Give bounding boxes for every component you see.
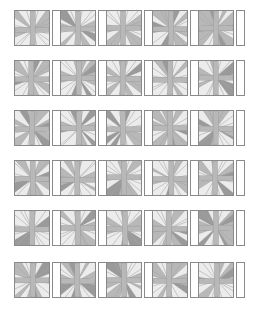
starburst-tile (60, 210, 96, 246)
tile-cell (106, 110, 152, 150)
starburst-tile (152, 160, 188, 196)
tile-cell (198, 110, 244, 150)
tile-cell (60, 160, 106, 200)
starburst-tile (152, 262, 188, 298)
starburst-tile (152, 60, 188, 96)
tile-row (0, 262, 254, 302)
tile-row (0, 10, 254, 50)
starburst-tile (60, 10, 96, 46)
starburst-tile (14, 160, 50, 196)
starburst-tile (60, 160, 96, 196)
tile-cell (14, 210, 60, 250)
separator-bar (236, 210, 245, 246)
starburst-tile (198, 10, 234, 46)
separator-bar (236, 60, 245, 96)
tile-cell (152, 210, 198, 250)
tile-cell (152, 160, 198, 200)
starburst-tile (106, 60, 142, 96)
tile-cell (198, 262, 244, 302)
starburst-tile (106, 10, 142, 46)
tile-row (0, 210, 254, 250)
tile-cell (198, 60, 244, 100)
tile-cell (152, 262, 198, 302)
tile-cell (14, 262, 60, 302)
tile-row (0, 60, 254, 100)
tile-cell (152, 10, 198, 50)
tile-cell (152, 60, 198, 100)
tile-cell (60, 60, 106, 100)
tile-cell (106, 262, 152, 302)
starburst-tile (106, 160, 142, 196)
separator-bar (236, 262, 245, 298)
tile-row (0, 160, 254, 200)
tile-cell (106, 160, 152, 200)
starburst-tile (106, 262, 142, 298)
tile-cell (14, 60, 60, 100)
starburst-tile (198, 60, 234, 96)
tile-cell (60, 210, 106, 250)
starburst-tile (14, 60, 50, 96)
tile-cell (198, 160, 244, 200)
tile-cell (60, 10, 106, 50)
starburst-tile (106, 110, 142, 146)
starburst-tile (14, 210, 50, 246)
starburst-tile (198, 262, 234, 298)
starburst-tile (198, 210, 234, 246)
tile-cell (60, 110, 106, 150)
starburst-tile (14, 262, 50, 298)
tile-grid (0, 0, 254, 310)
starburst-tile (198, 160, 234, 196)
starburst-tile (14, 110, 50, 146)
figure-canvas (0, 0, 254, 310)
starburst-tile (60, 60, 96, 96)
starburst-tile (152, 110, 188, 146)
tile-cell (60, 262, 106, 302)
tile-cell (106, 60, 152, 100)
tile-cell (106, 10, 152, 50)
separator-bar (236, 160, 245, 196)
tile-cell (14, 10, 60, 50)
tile-cell (198, 210, 244, 250)
separator-bar (236, 110, 245, 146)
starburst-tile (198, 110, 234, 146)
starburst-tile (152, 10, 188, 46)
starburst-tile (14, 10, 50, 46)
tile-cell (152, 110, 198, 150)
separator-bar (236, 10, 245, 46)
tile-cell (198, 10, 244, 50)
tile-row (0, 110, 254, 150)
tile-cell (14, 160, 60, 200)
starburst-tile (60, 262, 96, 298)
tile-cell (14, 110, 60, 150)
starburst-tile (60, 110, 96, 146)
starburst-tile (106, 210, 142, 246)
tile-cell (106, 210, 152, 250)
starburst-tile (152, 210, 188, 246)
